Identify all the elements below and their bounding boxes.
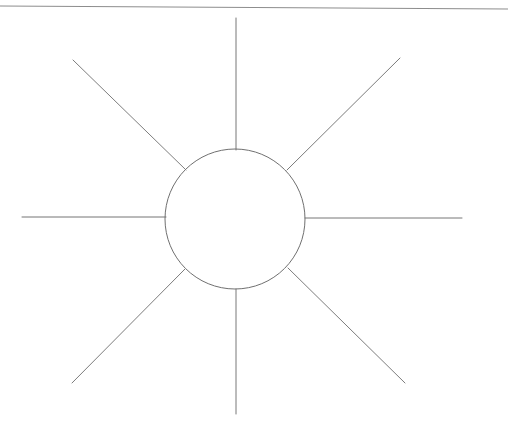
page-canvas-container: NorthNorth-EastEastSouth-EastSouthSouth-… — [0, 0, 508, 424]
sun-diagram-svg: NorthNorth-EastEastSouth-EastSouthSouth-… — [0, 0, 508, 424]
